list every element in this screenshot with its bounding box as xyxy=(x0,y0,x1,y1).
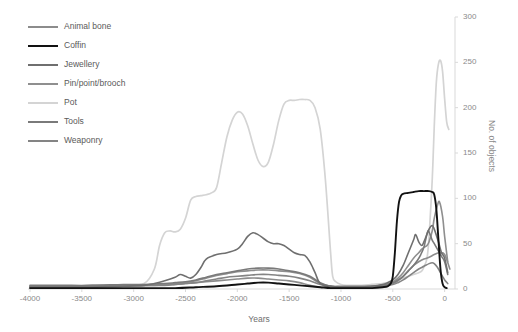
series-line-jewellery xyxy=(30,226,448,288)
y-tick-label: 200 xyxy=(463,103,493,112)
x-tick-label: -1000 xyxy=(319,294,363,303)
legend-color-swatch xyxy=(28,45,58,47)
legend-item-label: Coffin xyxy=(64,41,86,50)
legend-item-label: Tools xyxy=(64,117,84,126)
series-line-pin-point-brooch xyxy=(30,201,448,287)
legend-color-swatch xyxy=(28,121,58,123)
y-tick-label: 150 xyxy=(463,148,493,157)
chart-legend: Animal boneCoffinJewelleryPin/point/broo… xyxy=(28,17,188,150)
y-tick-label: 250 xyxy=(463,57,493,66)
x-tick-label: -3500 xyxy=(60,294,104,303)
legend-color-swatch xyxy=(28,64,58,66)
x-tick-label: -4000 xyxy=(8,294,52,303)
y-tick-label: 50 xyxy=(463,239,493,248)
y-tick-label: 300 xyxy=(463,12,493,21)
legend-item[interactable]: Tools xyxy=(28,112,188,131)
legend-color-swatch xyxy=(28,26,58,28)
legend-item-label: Animal bone xyxy=(64,22,111,31)
x-tick-label: -1500 xyxy=(267,294,311,303)
y-tick-label: 0 xyxy=(463,284,493,293)
x-tick-label: -2000 xyxy=(215,294,259,303)
x-tick-label: -500 xyxy=(371,294,415,303)
legend-color-swatch xyxy=(28,102,58,104)
legend-item[interactable]: Animal bone xyxy=(28,17,188,36)
legend-item-label: Weaponry xyxy=(64,136,103,145)
y-tick-label: 100 xyxy=(463,193,493,202)
legend-item[interactable]: Coffin xyxy=(28,36,188,55)
legend-item-label: Pin/point/brooch xyxy=(64,79,125,88)
legend-item[interactable]: Jewellery xyxy=(28,55,188,74)
legend-item-label: Pot xyxy=(64,98,77,107)
chart-container: Animal boneCoffinJewelleryPin/point/broo… xyxy=(0,0,518,332)
legend-color-swatch xyxy=(28,140,58,142)
x-tick-label: -3000 xyxy=(112,294,156,303)
legend-item[interactable]: Pot xyxy=(28,93,188,112)
y-axis-title: No. of objects xyxy=(487,120,497,172)
legend-item-label: Jewellery xyxy=(64,60,99,69)
legend-item[interactable]: Weaponry xyxy=(28,131,188,150)
legend-color-swatch xyxy=(28,83,58,85)
series-line-coffin xyxy=(30,191,447,288)
x-axis-title: Years xyxy=(0,314,518,324)
legend-item[interactable]: Pin/point/brooch xyxy=(28,74,188,93)
x-tick-label: -2500 xyxy=(163,294,207,303)
x-tick-label: 0 xyxy=(423,294,467,303)
